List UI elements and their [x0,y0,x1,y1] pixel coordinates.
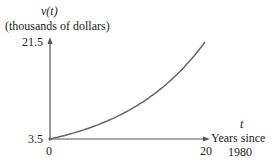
x-axis-label-line1: Years since [211,132,265,145]
x-axis-arrow-icon [203,137,210,142]
y-tick-3-5: 3.5 [28,133,43,146]
y-tick-21-5: 21.5 [22,36,43,49]
y-axis-variable: v(t) [41,5,58,18]
x-axis-variable: t [240,118,243,131]
x-tick-0: 0 [46,145,52,158]
x-tick-20: 20 [200,145,212,158]
y-axis-label: (thousands of dollars) [5,20,110,33]
data-curve [50,42,205,139]
x-axis-label-line2: 1980 [228,146,252,159]
y-axis-arrow-icon [48,37,53,44]
